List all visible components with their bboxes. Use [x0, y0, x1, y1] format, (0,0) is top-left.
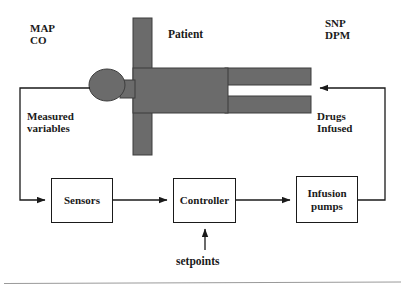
patient-leg-lower	[225, 96, 311, 113]
diagram-graphics	[0, 0, 405, 290]
block-infusion-pumps: Infusion pumps	[296, 176, 358, 223]
patient-leg-upper	[225, 68, 311, 85]
label-snp-dpm: SNP DPM	[325, 17, 350, 42]
diagram-canvas: MAP CO SNP DPM Patient Measured variable…	[0, 0, 405, 290]
block-sensors: Sensors	[51, 178, 113, 223]
label-patient: Patient	[168, 28, 203, 41]
patient-head	[89, 69, 125, 101]
label-map-co: MAP CO	[30, 22, 55, 47]
label-drugs-infused: Drugs Infused	[317, 110, 352, 135]
block-controller: Controller	[173, 178, 236, 223]
patient-torso	[133, 68, 228, 113]
bottom-divider	[4, 282, 401, 284]
label-setpoints: setpoints	[176, 255, 219, 268]
label-measured-variables: Measured variables	[27, 110, 74, 135]
